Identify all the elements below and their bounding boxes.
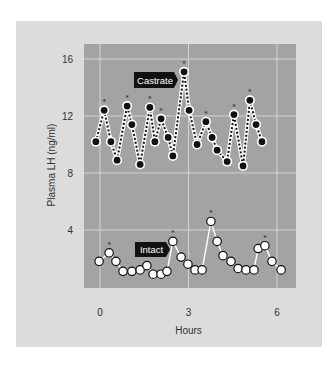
peak-asterisk: * <box>209 209 213 217</box>
y-axis-label: Plasma LH (ng/ml) <box>46 124 57 207</box>
plot-area <box>84 44 296 288</box>
peak-asterisk: * <box>171 229 175 237</box>
data-point-castrate <box>137 161 144 168</box>
data-point-castrate <box>214 147 221 154</box>
peak-asterisk: * <box>248 88 252 96</box>
data-point-intact <box>207 217 215 225</box>
x-tick-label: 3 <box>186 307 192 318</box>
data-point-intact <box>163 267 171 275</box>
data-point-intact <box>149 270 157 278</box>
data-point-intact <box>242 266 250 274</box>
data-point-castrate <box>253 121 260 128</box>
y-tick-label: 4 <box>67 225 73 236</box>
peak-asterisk: * <box>148 95 152 103</box>
data-point-intact <box>119 267 127 275</box>
data-point-castrate <box>231 111 238 118</box>
x-tick-label: 0 <box>97 307 103 318</box>
data-point-intact <box>184 260 192 268</box>
data-point-castrate <box>240 162 247 169</box>
data-point-castrate <box>108 138 115 145</box>
data-point-intact <box>277 266 285 274</box>
data-point-intact <box>219 251 227 259</box>
peak-asterisk: * <box>232 103 236 111</box>
data-point-castrate <box>186 107 193 114</box>
data-point-intact <box>177 253 185 261</box>
y-tick-label: 16 <box>62 54 74 65</box>
x-tick-label: 6 <box>274 307 280 318</box>
peak-asterisk: * <box>263 234 267 242</box>
data-point-intact <box>227 257 235 265</box>
data-point-intact <box>261 241 269 249</box>
chart-frame: 481216036HoursPlasma LH (ng/ml)*********… <box>16 21 322 347</box>
data-point-castrate <box>246 97 253 104</box>
x-axis-label: Hours <box>175 325 202 336</box>
data-point-castrate <box>124 103 131 110</box>
data-point-intact <box>169 237 177 245</box>
data-point-intact <box>143 261 151 269</box>
y-tick-label: 12 <box>62 111 74 122</box>
data-point-castrate <box>181 68 188 75</box>
data-point-castrate <box>92 138 99 145</box>
data-point-castrate <box>209 134 216 141</box>
data-point-castrate <box>114 157 121 164</box>
data-point-castrate <box>224 158 231 165</box>
peak-asterisk: * <box>107 241 111 249</box>
peak-asterisk: * <box>159 107 163 115</box>
data-point-castrate <box>146 104 153 111</box>
data-point-castrate <box>158 115 165 122</box>
data-point-castrate <box>128 121 135 128</box>
data-point-intact <box>128 267 136 275</box>
data-point-castrate <box>259 138 266 145</box>
data-point-intact <box>268 257 276 265</box>
peak-asterisk: * <box>204 110 208 118</box>
data-point-intact <box>105 249 113 257</box>
data-point-intact <box>95 257 103 265</box>
data-point-intact <box>213 237 221 245</box>
peak-asterisk: * <box>182 60 186 68</box>
intact-label: Intact <box>140 244 164 255</box>
data-point-castrate <box>194 141 201 148</box>
peak-asterisk: * <box>125 94 129 102</box>
data-point-castrate <box>101 107 108 114</box>
data-point-castrate <box>203 118 210 125</box>
chart: 481216036HoursPlasma LH (ng/ml)*********… <box>16 21 322 347</box>
data-point-intact <box>112 257 120 265</box>
peak-asterisk: * <box>102 98 106 106</box>
data-point-intact <box>234 264 242 272</box>
data-point-castrate <box>169 153 176 160</box>
data-point-castrate <box>165 134 172 141</box>
castrate-label: Castrate <box>137 75 173 86</box>
data-point-castrate <box>151 138 158 145</box>
data-point-intact <box>198 266 206 274</box>
data-point-intact <box>250 266 258 274</box>
y-tick-label: 8 <box>67 168 73 179</box>
